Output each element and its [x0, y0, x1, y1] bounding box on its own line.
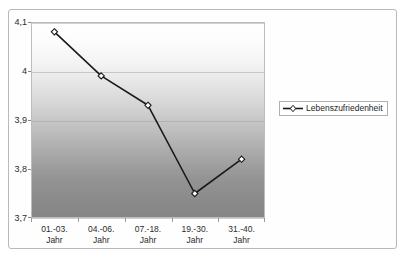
x-axis-labels: 01.-03. Jahr 04.-06. Jahr 07.-18. Jahr 1… — [31, 224, 265, 254]
x-tick-label-0-line2: Jahr — [31, 235, 78, 246]
x-tick-label-2-line2: Jahr — [125, 235, 172, 246]
chart-figure: 4,1 4 3,9 3,8 3,7 01.-03. Jahr 04.-06. J… — [0, 0, 407, 266]
series-lebenszufriedenheit — [31, 22, 265, 218]
x-tick-label-3-line1: 19.-30. — [182, 224, 208, 234]
chart-legend: Lebenszufriedenheit — [279, 101, 388, 116]
x-tick-label-3: 19.-30. Jahr — [171, 224, 218, 254]
y-tick-label-3-7: 3,7 — [14, 214, 27, 223]
x-tick-mark-1 — [78, 218, 79, 222]
series-markers — [51, 29, 244, 197]
gridline-3-7 — [32, 218, 264, 219]
x-tick-label-0-line1: 01.-03. — [41, 224, 67, 234]
x-tick-label-1: 04.-06. Jahr — [78, 224, 125, 254]
x-tick-label-2: 07.-18. Jahr — [125, 224, 172, 254]
x-tick-label-0: 01.-03. Jahr — [31, 224, 78, 254]
series-polyline — [54, 32, 241, 194]
x-tick-mark-5 — [264, 218, 265, 222]
y-tick-label-3-9: 3,9 — [14, 116, 27, 125]
x-tick-label-2-line1: 07.-18. — [135, 224, 161, 234]
x-tick-label-4: 31.-40. Jahr — [218, 224, 265, 254]
x-tick-label-4-line1: 31.-40. — [228, 224, 254, 234]
legend-label-lebenszufriedenheit: Lebenszufriedenheit — [306, 104, 383, 113]
x-tick-label-4-line2: Jahr — [218, 235, 265, 246]
y-axis-labels: 4,1 4 3,9 3,8 3,7 — [0, 22, 27, 218]
y-tick-label-4-0: 4 — [22, 67, 27, 76]
x-tick-mark-2 — [125, 218, 126, 222]
x-tick-label-3-line2: Jahr — [171, 235, 218, 246]
y-tick-label-3-8: 3,8 — [14, 165, 27, 174]
x-tick-label-1-line2: Jahr — [78, 235, 125, 246]
x-tick-mark-4 — [218, 218, 219, 222]
legend-marker-icon — [283, 104, 303, 113]
y-tick-label-4-1: 4,1 — [14, 18, 27, 27]
x-tick-label-1-line1: 04.-06. — [88, 224, 114, 234]
x-tick-mark-3 — [172, 218, 173, 222]
x-tick-mark-0 — [31, 218, 32, 222]
